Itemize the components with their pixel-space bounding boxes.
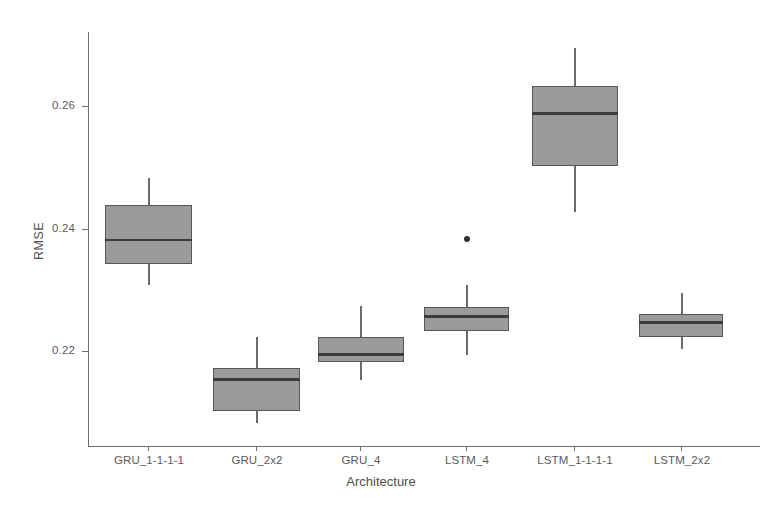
box-body xyxy=(532,86,618,166)
x-tick-label-lstm-4: LSTM_4 xyxy=(445,454,489,466)
boxplot-chart: 0.26 0.24 0.22 RMSE xyxy=(0,0,774,511)
x-tick-label-gru-4: GRU_4 xyxy=(342,454,381,466)
median-line xyxy=(105,239,192,242)
x-tick-0 xyxy=(148,446,149,451)
whisker-upper xyxy=(574,48,576,86)
box-body xyxy=(105,205,192,264)
whisker-lower xyxy=(360,362,362,380)
x-tick-label-gru-1-1-1-1: GRU_1-1-1-1 xyxy=(114,454,184,466)
x-tick-5 xyxy=(681,446,682,451)
whisker-lower xyxy=(256,411,258,423)
box-body xyxy=(213,368,300,412)
median-line xyxy=(213,378,300,381)
x-tick-label-lstm-1-1-1-1: LSTM_1-1-1-1 xyxy=(537,454,612,466)
whisker-upper xyxy=(681,293,683,314)
x-tick-4 xyxy=(574,446,575,451)
y-tick-0 xyxy=(82,106,88,107)
y-tick-label-1: 0.24 xyxy=(52,222,75,234)
outlier-point xyxy=(464,236,470,242)
x-tick-3 xyxy=(466,446,467,451)
x-axis-title: Architecture xyxy=(346,474,415,489)
box-body xyxy=(639,314,723,338)
x-tick-label-gru-2x2: GRU_2x2 xyxy=(231,454,282,466)
y-tick-2 xyxy=(82,351,88,352)
median-line xyxy=(639,321,723,324)
median-line xyxy=(532,112,618,115)
whisker-lower xyxy=(574,165,576,212)
whisker-lower xyxy=(148,263,150,285)
y-tick-label-2: 0.22 xyxy=(52,344,75,356)
whisker-upper xyxy=(360,306,362,337)
whisker-upper xyxy=(256,337,258,368)
whisker-lower xyxy=(681,337,683,349)
y-tick-1 xyxy=(82,229,88,230)
y-axis-line xyxy=(88,32,89,446)
y-axis-title: RMSE xyxy=(32,222,46,260)
x-tick-1 xyxy=(256,446,257,451)
whisker-upper xyxy=(148,178,150,205)
whisker-upper xyxy=(466,285,468,307)
whisker-lower xyxy=(466,330,468,355)
x-axis-line xyxy=(88,446,760,447)
x-tick-label-lstm-2x2: LSTM_2x2 xyxy=(654,454,710,466)
y-tick-label-0: 0.26 xyxy=(52,99,75,111)
median-line xyxy=(424,315,509,318)
x-tick-2 xyxy=(360,446,361,451)
box-body xyxy=(318,337,404,363)
box-body xyxy=(424,307,509,331)
median-line xyxy=(318,353,404,356)
